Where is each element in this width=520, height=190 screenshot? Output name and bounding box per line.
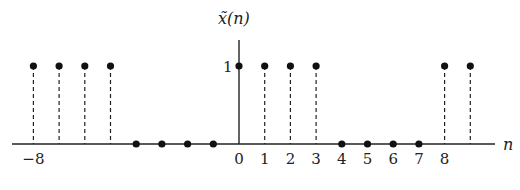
x-tick-label: 4 <box>337 150 347 168</box>
data-point <box>210 140 217 147</box>
data-point <box>441 62 448 69</box>
data-point <box>261 62 268 69</box>
data-point <box>235 62 242 69</box>
data-point <box>467 62 474 69</box>
y-axis-label: x̃(n) <box>218 9 250 28</box>
x-tick-label: 8 <box>440 150 450 168</box>
x-axis-label: n <box>503 135 513 154</box>
data-point <box>133 140 140 147</box>
stem-plot: −8012345678 x̃(n) n 1 <box>0 0 520 190</box>
x-tick-label: 6 <box>388 150 398 168</box>
tick-labels-group: −8012345678 <box>22 150 449 168</box>
data-point <box>313 62 320 69</box>
x-tick-label: 2 <box>286 150 296 168</box>
points-group <box>30 62 474 147</box>
data-point <box>107 62 114 69</box>
x-tick-label: 3 <box>311 150 321 168</box>
data-point <box>390 140 397 147</box>
data-point <box>30 62 37 69</box>
x-tick-label: 0 <box>234 150 244 168</box>
data-point <box>415 140 422 147</box>
data-point <box>364 140 371 147</box>
x-tick-label: 7 <box>414 150 424 168</box>
data-point <box>56 62 63 69</box>
y-tick-one: 1 <box>223 58 233 76</box>
x-tick-label: 1 <box>260 150 270 168</box>
data-point <box>338 140 345 147</box>
data-point <box>287 62 294 69</box>
data-point <box>81 62 88 69</box>
data-point <box>184 140 191 147</box>
stems-group <box>33 66 470 144</box>
x-tick-label: −8 <box>22 150 44 168</box>
data-point <box>158 140 165 147</box>
x-tick-label: 5 <box>363 150 373 168</box>
